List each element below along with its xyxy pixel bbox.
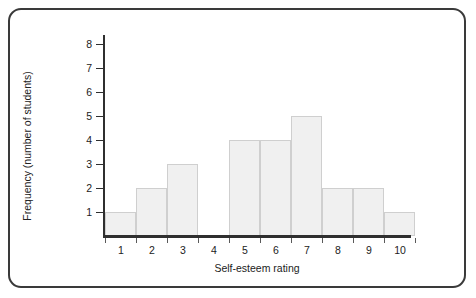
x-tick-label-1: 1 xyxy=(104,245,138,256)
y-tick-mark-4 xyxy=(96,140,103,141)
bar-rating-8 xyxy=(322,188,353,236)
x-tick-label-8: 8 xyxy=(321,245,355,256)
x-tick-label-3: 3 xyxy=(166,245,200,256)
bar-rating-6 xyxy=(260,140,291,236)
x-tick-label-4: 4 xyxy=(197,245,231,256)
y-tick-mark-2 xyxy=(96,188,103,189)
x-tick-mark-10 xyxy=(415,238,416,243)
x-axis-line xyxy=(103,235,411,238)
bar-rating-1 xyxy=(105,212,136,236)
x-tick-label-10: 10 xyxy=(383,245,417,256)
x-tick-label-5: 5 xyxy=(228,245,262,256)
y-axis-line xyxy=(103,35,105,236)
y-tick-label-4: 4 xyxy=(72,135,92,146)
y-tick-label-5: 5 xyxy=(72,111,92,122)
x-tick-mark-0 xyxy=(105,238,106,243)
y-tick-label-6: 6 xyxy=(72,87,92,98)
x-tick-mark-2 xyxy=(167,238,168,243)
y-axis-label: Frequency (number of students) xyxy=(21,56,33,236)
x-tick-mark-9 xyxy=(384,238,385,243)
y-tick-mark-5 xyxy=(96,116,103,117)
bar-rating-10 xyxy=(384,212,415,236)
x-axis-label: Self-esteem rating xyxy=(103,262,411,274)
x-tick-label-7: 7 xyxy=(290,245,324,256)
y-tick-mark-7 xyxy=(96,68,103,69)
y-tick-label-1: 1 xyxy=(72,207,92,218)
x-tick-mark-3 xyxy=(198,238,199,243)
bar-rating-3 xyxy=(167,164,198,236)
x-tick-label-9: 9 xyxy=(352,245,386,256)
x-tick-label-2: 2 xyxy=(135,245,169,256)
x-tick-mark-1 xyxy=(136,238,137,243)
x-tick-label-6: 6 xyxy=(259,245,293,256)
x-tick-mark-7 xyxy=(322,238,323,243)
x-tick-mark-4 xyxy=(229,238,230,243)
y-tick-mark-1 xyxy=(96,212,103,213)
chart-frame: Frequency (number of students) 1 2 3 4 5… xyxy=(8,8,466,288)
y-tick-mark-6 xyxy=(96,92,103,93)
histogram-plot-area: Frequency (number of students) 1 2 3 4 5… xyxy=(10,10,468,290)
x-tick-mark-8 xyxy=(353,238,354,243)
bar-rating-2 xyxy=(136,188,167,236)
y-tick-mark-3 xyxy=(96,164,103,165)
y-tick-label-8: 8 xyxy=(72,39,92,50)
bar-rating-5 xyxy=(229,140,260,236)
y-tick-label-3: 3 xyxy=(72,159,92,170)
y-tick-label-2: 2 xyxy=(72,183,92,194)
bar-rating-7 xyxy=(291,116,322,236)
y-tick-label-7: 7 xyxy=(72,63,92,74)
y-tick-mark-8 xyxy=(96,44,103,45)
x-tick-mark-5 xyxy=(260,238,261,243)
bar-rating-9 xyxy=(353,188,384,236)
x-tick-mark-6 xyxy=(291,238,292,243)
